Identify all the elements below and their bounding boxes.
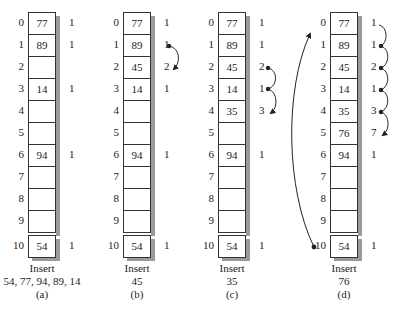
probe-arrow-c (266, 66, 276, 113)
probe-arrows (0, 0, 402, 315)
wraparound-arrow-d (292, 34, 317, 249)
probe-arrow-d-chain (379, 25, 388, 135)
probe-arrow-b (167, 44, 179, 69)
